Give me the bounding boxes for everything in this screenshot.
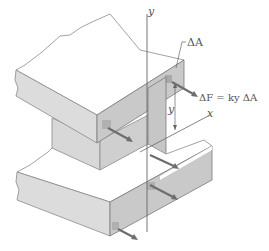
force-equation-label: ΔF = ky ΔA: [199, 93, 257, 103]
delta-a-label: ΔA: [187, 37, 203, 48]
y-axis-label: y: [148, 6, 154, 17]
x-axis-label: x: [207, 108, 213, 119]
y-distance-label: y: [168, 104, 174, 115]
i-beam-diagram: [0, 0, 269, 251]
